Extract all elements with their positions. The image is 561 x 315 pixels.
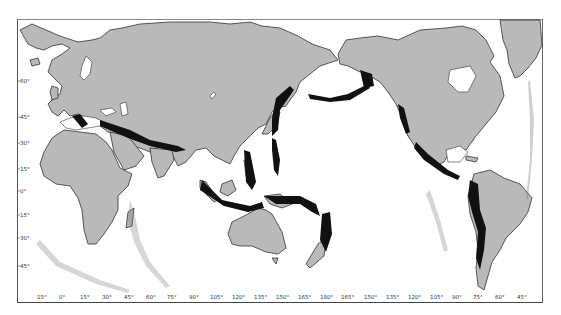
landmass-north-america: [338, 26, 504, 166]
landmass-iceland: [30, 58, 40, 66]
x-label: 120°: [232, 294, 245, 300]
x-axis: 15° 0° 15° 30° 45° 60° 75° 90° 105° 120°…: [37, 294, 527, 300]
x-label: 45°: [517, 294, 527, 300]
x-label: 75°: [473, 294, 483, 300]
x-label: 15°: [80, 294, 90, 300]
landmass-australia: [228, 208, 286, 254]
x-label: 105°: [430, 294, 443, 300]
y-label-15S: 15°: [20, 212, 30, 218]
x-label: 150°: [364, 294, 377, 300]
x-label: 60°: [495, 294, 505, 300]
y-label-30S: 30°: [20, 235, 30, 241]
y-label-equator: 0°: [20, 188, 26, 194]
x-label: 15°: [37, 294, 47, 300]
landmass-britain: [50, 86, 58, 100]
x-label: 105°: [210, 294, 223, 300]
landmass-greenland: [500, 20, 542, 78]
x-label: 0°: [59, 294, 65, 300]
y-label-15N: 15°: [20, 166, 30, 172]
x-label: 165°: [298, 294, 311, 300]
landmass-india: [150, 148, 174, 178]
landmass-cuba: [466, 156, 478, 162]
x-label: 135°: [386, 294, 399, 300]
y-label-45S: 45°: [20, 263, 30, 269]
world-earthquake-map: 60° 45° 30° 15° 0° 15° 30° 45° 15° 0° 15…: [0, 0, 561, 315]
x-label: 180°: [320, 294, 333, 300]
y-label-60N: 60°: [20, 78, 30, 84]
x-label: 90°: [452, 294, 462, 300]
x-label: 150°: [276, 294, 289, 300]
y-label-45N: 45°: [20, 114, 30, 120]
x-label: 60°: [146, 294, 156, 300]
x-label: 45°: [124, 294, 134, 300]
x-label: 30°: [102, 294, 112, 300]
x-label: 135°: [254, 294, 267, 300]
x-label: 165°: [341, 294, 354, 300]
landmass-borneo: [220, 180, 236, 196]
x-label: 75°: [167, 294, 177, 300]
y-label-30N: 30°: [20, 140, 30, 146]
landmass-tasmania: [272, 258, 278, 264]
y-axis: 60° 45° 30° 15° 0° 15° 30° 45°: [17, 78, 30, 269]
x-label: 90°: [189, 294, 199, 300]
x-label: 120°: [408, 294, 421, 300]
